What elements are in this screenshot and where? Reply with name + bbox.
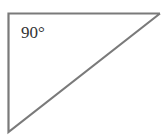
triangle-diagram (0, 0, 161, 140)
right-angle-label: 90° (21, 24, 45, 41)
